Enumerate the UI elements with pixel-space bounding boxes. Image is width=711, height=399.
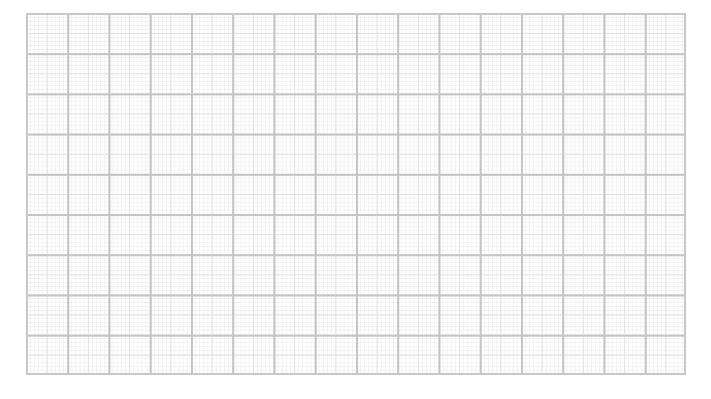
graph-paper-grid	[26, 13, 686, 375]
